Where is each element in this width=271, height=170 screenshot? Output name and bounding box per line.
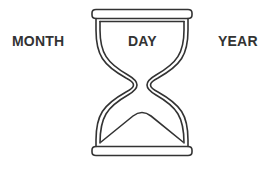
month-label: MONTH [12, 33, 64, 49]
year-label: YEAR [218, 33, 258, 49]
hourglass-icon [0, 0, 271, 170]
day-label: DAY [128, 33, 157, 49]
